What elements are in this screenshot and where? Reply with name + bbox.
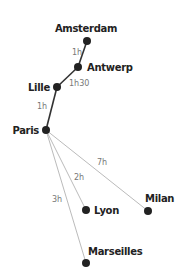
node-marseilles <box>82 259 90 267</box>
label-marseilles: Marseilles <box>88 246 143 257</box>
label-lille: Lille <box>28 82 50 93</box>
label-paris: Paris <box>12 125 39 136</box>
edge-label-antwerp-lille: 1h30 <box>69 79 89 88</box>
label-lyon: Lyon <box>94 205 119 216</box>
node-milan <box>144 207 152 215</box>
edge-lille-paris <box>46 87 57 130</box>
node-lille <box>53 83 61 91</box>
route-diagram: Amsterdam Antwerp Lille Paris Lyon Milan… <box>0 0 183 280</box>
node-lyon <box>82 206 90 214</box>
edge-label-paris-lyon: 2h <box>74 173 84 182</box>
node-paris <box>42 126 50 134</box>
edge-label-lille-paris: 1h <box>37 102 47 111</box>
node-antwerp <box>74 63 82 71</box>
label-antwerp: Antwerp <box>87 62 133 73</box>
edge-label-paris-marseilles: 3h <box>52 195 62 204</box>
edge-label-amsterdam-antwerp: 1h <box>72 48 82 57</box>
node-amsterdam <box>83 37 91 45</box>
label-milan: Milan <box>145 193 174 204</box>
label-amsterdam: Amsterdam <box>55 23 117 34</box>
edge-label-paris-milan: 7h <box>97 158 107 167</box>
